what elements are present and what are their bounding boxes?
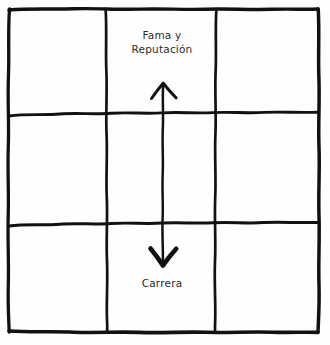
grid-outer-border-left — [8, 9, 9, 332]
arrow-shaft — [162, 84, 163, 264]
grid-outer-border-bottom — [9, 331, 318, 333]
grid-outer-border-right — [318, 9, 319, 332]
diagram-canvas: Fama y Reputación Carrera — [0, 0, 330, 345]
grid-outer-border-top — [9, 9, 318, 10]
label-fama-y-reputacion: Fama y Reputación — [108, 28, 216, 56]
vertical-double-arrow — [151, 83, 177, 265]
label-carrera: Carrera — [108, 276, 216, 290]
